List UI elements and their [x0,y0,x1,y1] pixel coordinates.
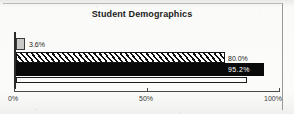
chart-figure: Student Demographics 3.6% 80.0% 95.2% 0%… [0,0,294,114]
bar-label-series-3: 95.2% [228,66,250,73]
bar-series-3[interactable] [16,63,264,76]
x-axis-label-50: 50% [139,95,153,102]
bar-series-2[interactable] [16,52,225,63]
x-axis-tick-50 [147,88,148,92]
plot-area: 3.6% 80.0% 95.2% [14,32,280,90]
bar-series-1[interactable] [16,38,25,50]
chart-title: Student Demographics [0,9,284,19]
x-axis-label-100: 100% [264,95,282,102]
x-axis-tick-100 [279,88,280,92]
bar-series-4[interactable] [16,77,247,83]
bar-label-series-1: 3.6% [29,41,45,48]
x-axis-tick-0 [14,88,15,92]
bar-label-series-2: 80.0% [228,55,248,62]
x-axis-label-0: 0% [8,95,18,102]
